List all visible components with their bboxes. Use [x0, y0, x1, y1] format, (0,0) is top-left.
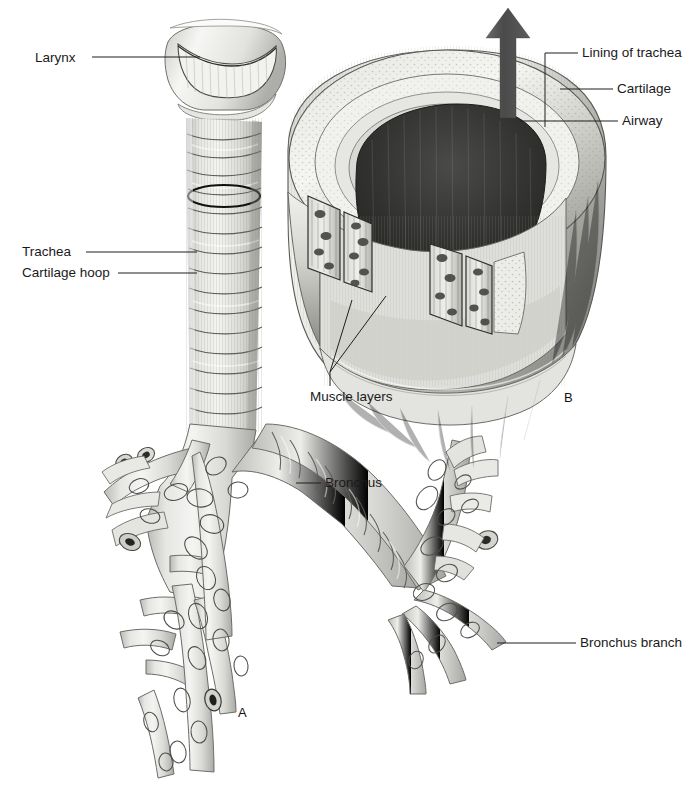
label-bronchus: Bronchus [325, 476, 382, 490]
label-cartilage-hoop: Cartilage hoop [22, 266, 110, 280]
label-trachea: Trachea [22, 245, 71, 259]
label-lining-of-trachea: Lining of trachea [582, 46, 682, 60]
muscle-panel-left-b [344, 212, 372, 292]
label-cartilage: Cartilage [617, 82, 671, 96]
muscle-panel-right-a [430, 244, 462, 326]
label-muscle-layers: Muscle layers [310, 390, 393, 404]
panel-letter-b: B [564, 390, 573, 405]
anatomy-figure-canvas: Larynx Trachea Cartilage hoop Bronchus B… [0, 0, 696, 802]
panel-letter-a: A [238, 705, 247, 720]
trachea-tube [186, 118, 262, 434]
right-bronchial-tree [388, 436, 506, 694]
label-larynx: Larynx [35, 51, 76, 65]
label-airway: Airway [622, 114, 663, 128]
muscle-panel-left-a [308, 196, 340, 280]
larynx-cartilage [165, 19, 286, 120]
label-bronchus-branch: Bronchus branch [580, 636, 682, 650]
muscle-panel-right-b [466, 256, 492, 334]
